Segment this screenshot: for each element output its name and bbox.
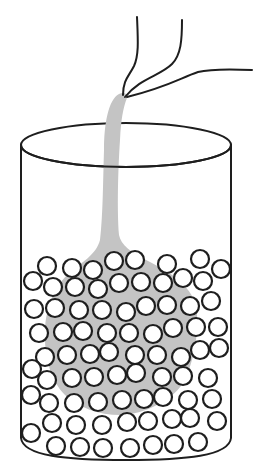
bead xyxy=(144,325,162,343)
bead xyxy=(63,369,81,387)
bead xyxy=(137,297,155,315)
bead xyxy=(71,438,89,456)
bead xyxy=(43,414,61,432)
bead xyxy=(202,292,220,310)
bead xyxy=(209,318,227,336)
bead xyxy=(132,273,150,291)
bead xyxy=(174,269,192,287)
bead xyxy=(46,299,64,317)
bead xyxy=(172,348,190,366)
bead xyxy=(187,318,205,336)
bead xyxy=(44,278,62,296)
bead xyxy=(117,303,135,321)
bead xyxy=(153,368,171,386)
bead xyxy=(100,343,118,361)
bead xyxy=(165,435,183,453)
bead xyxy=(70,301,88,319)
bead-bed-infiltration-diagram: Liquid poured from tubes into a cylinder… xyxy=(0,0,258,476)
bead xyxy=(118,413,136,431)
bead xyxy=(93,301,111,319)
bead xyxy=(38,257,56,275)
bead xyxy=(110,274,128,292)
bead xyxy=(203,390,221,408)
tube-left xyxy=(123,17,138,95)
bead xyxy=(25,300,43,318)
bead xyxy=(210,339,228,357)
bead xyxy=(121,439,139,457)
bead xyxy=(85,368,103,386)
bead xyxy=(94,439,112,457)
cylinder-front-rim xyxy=(21,145,231,167)
bead xyxy=(47,437,65,455)
tube-right xyxy=(127,69,252,97)
bead xyxy=(164,319,182,337)
bead xyxy=(154,274,172,292)
bead xyxy=(148,346,166,364)
bead xyxy=(191,250,209,268)
bead xyxy=(98,324,116,342)
bead xyxy=(158,255,176,273)
bead xyxy=(199,369,217,387)
bead xyxy=(174,367,192,385)
bead xyxy=(127,364,145,382)
diagram-canvas: Liquid poured from tubes into a cylinder… xyxy=(0,0,258,476)
bead xyxy=(63,259,81,277)
bead xyxy=(24,272,42,290)
bead xyxy=(22,424,40,442)
bead xyxy=(208,412,226,430)
bead xyxy=(89,393,107,411)
bead xyxy=(66,278,84,296)
bead xyxy=(67,416,85,434)
bead xyxy=(194,272,212,290)
bead xyxy=(212,260,230,278)
bead xyxy=(189,433,207,451)
bead xyxy=(40,394,58,412)
bead xyxy=(89,280,107,298)
bead xyxy=(93,416,111,434)
bead xyxy=(30,324,48,342)
bead xyxy=(54,323,72,341)
bead xyxy=(81,345,99,363)
bead xyxy=(181,409,199,427)
bead xyxy=(179,391,197,409)
bead xyxy=(126,346,144,364)
tube-middle xyxy=(125,20,182,97)
bead xyxy=(154,388,172,406)
bead xyxy=(120,324,138,342)
tube-bundle xyxy=(123,17,252,97)
bead xyxy=(113,391,131,409)
bead xyxy=(144,436,162,454)
bead xyxy=(135,390,153,408)
bead xyxy=(74,322,92,340)
bead xyxy=(163,410,181,428)
bead xyxy=(139,412,157,430)
bead xyxy=(58,346,76,364)
bead xyxy=(65,394,83,412)
bead xyxy=(126,251,144,269)
bead xyxy=(22,386,40,404)
bead xyxy=(38,371,56,389)
bead xyxy=(84,261,102,279)
bead-bed xyxy=(22,250,230,457)
bead xyxy=(105,252,123,270)
bead xyxy=(191,341,209,359)
bead xyxy=(181,297,199,315)
bead xyxy=(158,296,176,314)
bead xyxy=(108,366,126,384)
